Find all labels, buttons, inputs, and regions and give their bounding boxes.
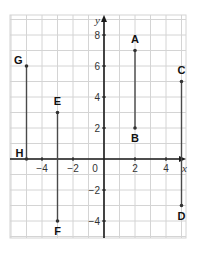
point-label-B: B [131, 132, 139, 144]
point-label-F: F [54, 225, 61, 237]
y-tick-label: 6 [94, 61, 100, 72]
point-B [133, 126, 137, 130]
point-F [56, 219, 60, 223]
y-tick-label: 2 [94, 123, 100, 134]
point-label-D: D [178, 210, 186, 222]
y-axis-arrow-icon [101, 15, 107, 22]
point-label-C: C [178, 64, 186, 76]
point-E [56, 111, 60, 115]
point-H [25, 157, 29, 161]
point-G [25, 64, 29, 68]
y-tick-label: −2 [89, 185, 101, 196]
x-tick-label: 2 [132, 163, 138, 174]
y-tick-label: −4 [89, 216, 101, 227]
point-A [133, 49, 137, 53]
point-label-A: A [131, 33, 139, 45]
y-axis-label: y [94, 14, 100, 26]
point-label-E: E [54, 95, 61, 107]
point-C [180, 80, 184, 84]
x-tick-label: −4 [36, 163, 48, 174]
point-label-H: H [16, 147, 24, 159]
point-D [180, 204, 184, 208]
y-tick-label: 4 [94, 92, 100, 103]
coordinate-grid: xy −4−2024−4−22468 ABCDEFGH [0, 0, 210, 256]
x-tick-label: 4 [163, 163, 169, 174]
y-tick-label: 8 [94, 30, 100, 41]
x-tick-label: −2 [67, 163, 79, 174]
point-label-G: G [14, 54, 23, 66]
x-tick-label: 0 [92, 163, 98, 174]
